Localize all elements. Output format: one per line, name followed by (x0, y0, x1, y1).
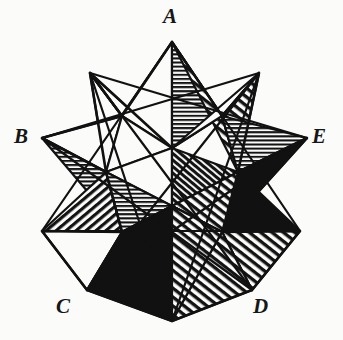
vertex-label-C: C (56, 296, 71, 317)
vertex-label-B: B (14, 126, 29, 147)
vertex-label-E: E (312, 126, 327, 147)
vertex-label-A: A (163, 6, 178, 27)
stellated-dodecahedron-illustration (0, 0, 343, 340)
figure-container: A B C D E (0, 0, 343, 340)
vertex-label-D: D (253, 296, 269, 317)
